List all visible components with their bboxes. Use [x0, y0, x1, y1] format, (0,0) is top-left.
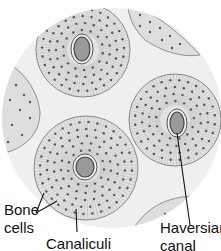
- bone-cell-lacuna: [86, 135, 88, 137]
- bone-cell-lacuna: [115, 40, 117, 42]
- bone-cell-lacuna: [165, 87, 167, 89]
- label-haversian-line2: canal: [160, 238, 196, 251]
- bone-cell-lacuna: [131, 169, 133, 171]
- bone-cell-lacuna: [94, 129, 96, 131]
- bone-cell-lacuna: [122, 56, 124, 58]
- bone-cell-lacuna: [98, 204, 100, 206]
- bone-cell-lacuna: [56, 58, 58, 60]
- bone-cell-lacuna: [159, 27, 161, 29]
- bone-cell-lacuna: [197, 213, 199, 215]
- bone-cell-lacuna: [198, 96, 200, 98]
- bone-cell-lacuna: [122, 194, 124, 196]
- bone-cell-lacuna: [178, 79, 180, 81]
- bone-cell-lacuna: [119, 136, 121, 138]
- bone-cell-lacuna: [86, 90, 88, 92]
- bone-cell-lacuna: [165, 102, 167, 104]
- bone-cell-lacuna: [113, 22, 115, 24]
- bone-cell-lacuna: [84, 192, 86, 194]
- bone-cell-lacuna: [134, 123, 136, 125]
- bone-cell-lacuna: [81, 15, 83, 17]
- bone-cell-lacuna: [129, 178, 131, 180]
- label-canaliculi: Canaliculi: [46, 236, 111, 251]
- bone-cell-lacuna: [191, 126, 193, 128]
- bone-cell-lacuna: [100, 210, 102, 212]
- bone-cell-lacuna: [21, 134, 23, 136]
- bone-cell-lacuna: [73, 211, 75, 213]
- bone-cell-lacuna: [100, 69, 102, 71]
- bone-cell-lacuna: [106, 62, 108, 64]
- bone-cell-lacuna: [97, 35, 99, 37]
- bone-cell-lacuna: [75, 23, 77, 25]
- bone-cell-lacuna: [67, 193, 69, 195]
- bone-cell-lacuna: [60, 137, 62, 139]
- bone-cell-lacuna: [214, 123, 216, 125]
- bone-cell-lacuna: [121, 38, 123, 40]
- bone-cell-lacuna: [116, 144, 118, 146]
- bone-cell-lacuna: [208, 140, 210, 142]
- bone-cell-lacuna: [123, 160, 125, 162]
- bone-cell-lacuna: [113, 194, 115, 196]
- bone-cell-lacuna: [110, 79, 112, 81]
- bone-cell-lacuna: [67, 26, 69, 28]
- bone-cell-lacuna: [95, 88, 97, 90]
- bone-cell-lacuna: [62, 46, 64, 48]
- bone-cell-lacuna: [29, 101, 31, 103]
- bone-cell-lacuna: [184, 143, 186, 145]
- bone-cell-lacuna: [56, 193, 58, 195]
- bone-cell-lacuna: [187, 81, 189, 83]
- bone-cell-lacuna: [192, 138, 194, 140]
- bone-cell-lacuna: [214, 114, 216, 116]
- bone-cell-lacuna: [75, 75, 77, 77]
- bone-cell-lacuna: [93, 190, 95, 192]
- bone-cell-lacuna: [206, 112, 208, 114]
- bone-cell-lacuna: [175, 145, 177, 147]
- bone-cell-lacuna: [92, 66, 94, 68]
- bone-cell-lacuna: [195, 153, 197, 155]
- bone-cell-lacuna: [171, 47, 173, 49]
- bone-cell-lacuna: [187, 149, 189, 151]
- bone-cell-lacuna: [118, 30, 120, 32]
- bone-cell-lacuna: [19, 109, 21, 111]
- bone-cell-lacuna: [169, 35, 171, 37]
- bone-cell-lacuna: [75, 197, 77, 199]
- bone-cell-lacuna: [152, 85, 154, 87]
- bone-cell-lacuna: [69, 88, 71, 90]
- bone-cell-lacuna: [23, 94, 25, 96]
- bone-cell-lacuna: [113, 181, 115, 183]
- bone-cell-lacuna: [115, 57, 117, 59]
- bone-cell-lacuna: [61, 145, 63, 147]
- bone-cell-lacuna: [91, 212, 93, 214]
- bone-cell-lacuna: [101, 43, 103, 45]
- bone-cell-lacuna: [121, 152, 123, 154]
- bone-cell-lacuna: [70, 178, 72, 180]
- bone-cell-lacuna: [98, 146, 100, 148]
- bone-cell-lacuna: [110, 137, 112, 139]
- bone-cell-lacuna: [67, 62, 69, 64]
- bone-cell-lacuna: [60, 32, 62, 34]
- bone-cell-lacuna: [111, 32, 113, 34]
- bone-cell-lacuna: [80, 149, 82, 151]
- bone-cell-lacuna: [82, 8, 84, 10]
- bone-cell-lacuna: [140, 98, 142, 100]
- bone-cell-lacuna: [45, 190, 47, 192]
- bone-cell-lacuna: [197, 131, 199, 133]
- bone-cell-lacuna: [53, 170, 55, 172]
- bone-cell-lacuna: [126, 187, 128, 189]
- bone-cell-lacuna: [44, 64, 46, 66]
- bone-cell-lacuna: [48, 49, 50, 51]
- bone-cell-lacuna: [128, 152, 130, 154]
- bone-cell-lacuna: [68, 132, 70, 134]
- bone-cell-lacuna: [205, 130, 207, 132]
- bone-cell-lacuna: [46, 160, 48, 162]
- bone-cell-lacuna: [51, 22, 53, 24]
- bone-cell-lacuna: [169, 79, 171, 81]
- bone-cell-lacuna: [120, 64, 122, 66]
- bone-cell-lacuna: [103, 132, 105, 134]
- bone-cell-lacuna: [166, 144, 168, 146]
- bone-cell-lacuna: [105, 125, 107, 127]
- bone-cell-lacuna: [72, 145, 74, 147]
- bone-cell-lacuna: [196, 105, 198, 107]
- bone-cell-lacuna: [124, 143, 126, 145]
- bone-cell-lacuna: [96, 153, 98, 155]
- bone-cell-lacuna: [146, 147, 148, 149]
